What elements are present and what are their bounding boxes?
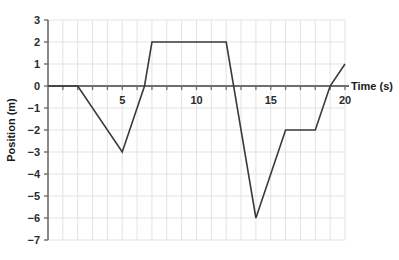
- x-tick-label: 10: [190, 94, 202, 106]
- chart-canvas: 3210−1−2−3−4−5−6−7 5101520 Time (s) Posi…: [0, 0, 399, 260]
- x-tick-label: 20: [339, 94, 351, 106]
- x-tick-label: 5: [119, 94, 125, 106]
- y-tick-label: 2: [34, 36, 40, 48]
- y-tick-label: −7: [27, 234, 40, 246]
- x-tick-label: 15: [265, 94, 277, 106]
- y-tick-label: 1: [34, 58, 40, 70]
- y-tick-label: 3: [34, 14, 40, 26]
- position-vs-time-chart: 3210−1−2−3−4−5−6−7 5101520 Time (s) Posi…: [0, 0, 399, 260]
- x-axis-title: Time (s): [351, 80, 393, 92]
- y-tick-label: −6: [27, 212, 40, 224]
- y-tick-label: −1: [27, 102, 40, 114]
- y-tick-label: −3: [27, 146, 40, 158]
- y-tick-label: −2: [27, 124, 40, 136]
- y-tick-label: −4: [27, 168, 40, 180]
- y-tick-label: 0: [34, 80, 40, 92]
- y-tick-label: −5: [27, 190, 40, 202]
- y-axis-title: Position (m): [5, 98, 17, 162]
